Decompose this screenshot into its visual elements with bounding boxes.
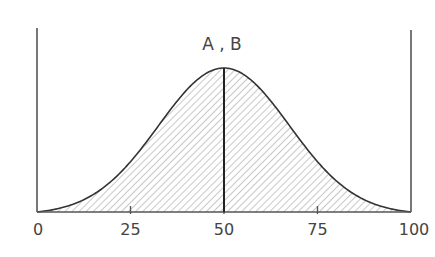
x-tick-label: 75 (307, 220, 327, 239)
x-tick-label: 100 (399, 220, 430, 239)
x-tick-label: 50 (214, 220, 234, 239)
x-tick-label: 25 (120, 220, 140, 239)
bell-curve-chart: 0255075100 A , B (0, 0, 435, 257)
x-tick-label: 0 (33, 220, 43, 239)
annotation-label: A , B (202, 34, 242, 54)
chart-svg: 0255075100 A , B (0, 0, 435, 257)
